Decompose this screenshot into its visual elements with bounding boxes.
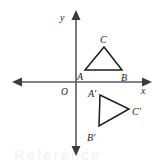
triangle-a-prime-b-prime-c-prime: A' B' C' — [87, 88, 142, 143]
vertex-label-c: C — [100, 34, 107, 45]
x-axis-left-arrowhead — [12, 78, 22, 87]
x-axis-label: x — [140, 85, 146, 96]
y-axis: y — [59, 10, 81, 156]
triangle-abc: A B C — [76, 34, 127, 83]
coordinate-plane-svg: Reference x y O A B C A' B' — [0, 0, 164, 167]
triangle-abc-outline — [85, 47, 122, 70]
geometry-figure: Reference x y O A B C A' B' — [0, 0, 164, 167]
vertex-label-a: A — [76, 71, 84, 82]
vertex-label-a-prime: A' — [87, 88, 97, 99]
y-axis-top-arrowhead — [72, 10, 81, 20]
y-axis-label: y — [59, 12, 65, 23]
triangle-a-prime-outline — [99, 95, 129, 126]
vertex-label-b: B — [121, 72, 127, 83]
vertex-label-b-prime: B' — [87, 132, 96, 143]
origin-label: O — [61, 87, 68, 97]
vertex-label-c-prime: C' — [132, 106, 142, 117]
watermark-text: Reference — [14, 146, 101, 163]
